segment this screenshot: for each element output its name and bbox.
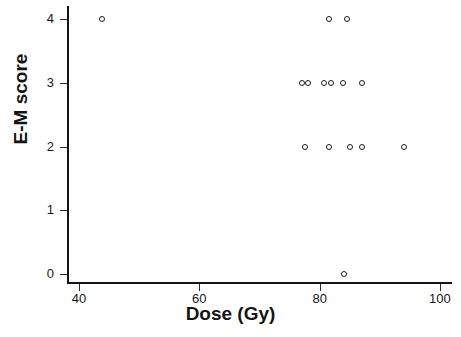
y-tick-4 bbox=[60, 19, 67, 20]
data-point bbox=[340, 80, 346, 86]
data-point bbox=[305, 80, 311, 86]
data-point bbox=[326, 16, 332, 22]
data-point bbox=[326, 144, 332, 150]
y-axis-line bbox=[67, 6, 69, 284]
data-point bbox=[321, 80, 327, 86]
x-tick-80 bbox=[320, 284, 321, 291]
x-tick-label-40: 40 bbox=[59, 292, 99, 305]
y-tick-3 bbox=[60, 83, 67, 84]
x-tick-label-60: 60 bbox=[179, 292, 219, 305]
x-tick-100 bbox=[440, 284, 441, 291]
y-tick-label-0: 0 bbox=[28, 267, 54, 280]
x-tick-label-80: 80 bbox=[300, 292, 340, 305]
scatter-plot-figure: E-M score Dose (Gy) 01234 406080100 bbox=[0, 0, 461, 337]
data-point bbox=[99, 16, 105, 22]
y-tick-label-1: 1 bbox=[28, 203, 54, 216]
data-point bbox=[341, 271, 347, 277]
y-tick-label-3: 3 bbox=[28, 76, 54, 89]
y-tick-label-2: 2 bbox=[28, 140, 54, 153]
data-point bbox=[359, 144, 365, 150]
x-axis-line bbox=[67, 282, 452, 284]
data-point bbox=[328, 80, 334, 86]
y-tick-1 bbox=[60, 210, 67, 211]
data-point bbox=[302, 144, 308, 150]
x-axis-label: Dose (Gy) bbox=[0, 303, 461, 325]
y-tick-2 bbox=[60, 147, 67, 148]
data-point bbox=[347, 144, 353, 150]
data-point bbox=[359, 80, 365, 86]
y-tick-0 bbox=[60, 274, 67, 275]
x-tick-label-100: 100 bbox=[420, 292, 460, 305]
data-point bbox=[299, 80, 305, 86]
x-tick-60 bbox=[199, 284, 200, 291]
data-point bbox=[344, 16, 350, 22]
y-tick-label-4: 4 bbox=[28, 12, 54, 25]
x-tick-40 bbox=[79, 284, 80, 291]
data-point bbox=[401, 144, 407, 150]
